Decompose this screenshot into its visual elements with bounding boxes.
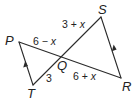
geometry-diagram: P S R T Q 3 + x 6 − x 3 6 + x: [0, 0, 140, 104]
vertex-label-S: S: [98, 2, 107, 17]
length-label-TQ: 3: [46, 72, 52, 84]
vertex-label-P: P: [5, 33, 14, 48]
length-label-PQ: 6 − x: [33, 35, 57, 47]
parallel-arrow-icon-SR: [112, 45, 117, 52]
length-label-QR: 6 + x: [73, 70, 97, 82]
vertex-label-T: T: [27, 86, 36, 101]
vertex-label-Q: Q: [57, 58, 67, 73]
vertex-label-R: R: [122, 79, 131, 94]
segment-SR: [101, 17, 121, 78]
length-label-SQ: 3 + x: [62, 18, 86, 30]
